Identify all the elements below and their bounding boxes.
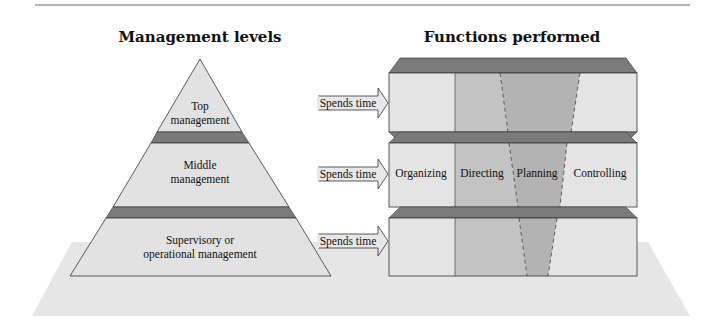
- level-middle-line1: Middle: [183, 159, 216, 171]
- arrow-top: Spends time: [318, 88, 388, 118]
- pyramid: Top management Middle management Supervi…: [70, 59, 331, 276]
- block-top-management: [389, 73, 637, 132]
- block-separator-bevel: [389, 132, 637, 143]
- pyramid-band-2: [106, 207, 296, 218]
- function-organizing: Organizing: [395, 167, 447, 180]
- block-supervisory-management: [389, 218, 637, 276]
- level-bottom-line1: Supervisory or: [166, 234, 234, 247]
- level-middle-line2: management: [171, 173, 231, 186]
- segment-directing: [455, 73, 508, 132]
- function-planning: Planning: [517, 167, 558, 180]
- level-top-line1: Top: [191, 100, 209, 113]
- left-title: Management levels: [118, 28, 281, 46]
- function-directing: Directing: [460, 167, 504, 180]
- block-top-bevel: [389, 58, 637, 73]
- arrow-label: Spends time: [320, 235, 377, 248]
- function-controlling: Controlling: [573, 167, 626, 180]
- segment-directing: [455, 218, 527, 276]
- arrow-middle: Spends time: [318, 159, 388, 189]
- management-functions-diagram: Management levels Functions performed To…: [0, 0, 715, 329]
- arrow-label: Spends time: [320, 97, 377, 110]
- level-bottom-line2: operational management: [143, 248, 257, 261]
- block-separator-bevel: [389, 207, 637, 218]
- function-blocks: Organizing Directing Planning Controllin…: [389, 58, 637, 276]
- block-middle-management: Organizing Directing Planning Controllin…: [389, 143, 637, 207]
- level-top-line2: management: [171, 114, 231, 127]
- segment-planning: [500, 73, 580, 132]
- arrow-label: Spends time: [320, 168, 377, 181]
- pyramid-bottom-tier: [70, 218, 331, 276]
- right-title: Functions performed: [424, 28, 601, 46]
- pyramid-band-1: [151, 132, 249, 143]
